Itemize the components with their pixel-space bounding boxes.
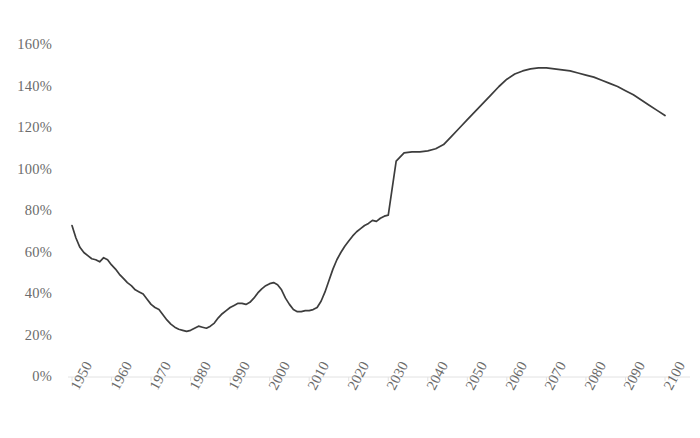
y-tick-label: 20% bbox=[4, 327, 52, 344]
y-tick-label: 140% bbox=[4, 78, 52, 95]
chart-container: 160%140%120%100%80%60%40%20%0% 195019601… bbox=[0, 0, 700, 438]
y-tick-label: 80% bbox=[4, 202, 52, 219]
y-tick-label: 160% bbox=[4, 36, 52, 53]
y-tick-label: 60% bbox=[4, 244, 52, 261]
y-tick-label: 40% bbox=[4, 285, 52, 302]
series-line-debt-to-gdp bbox=[72, 68, 665, 332]
y-tick-label: 0% bbox=[4, 368, 52, 385]
y-tick-label: 120% bbox=[4, 119, 52, 136]
y-tick-label: 100% bbox=[4, 161, 52, 178]
